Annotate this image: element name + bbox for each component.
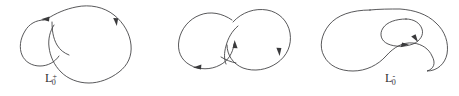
arrow-head-right-edge: [113, 18, 118, 26]
arrow-head-right-edge: [276, 48, 281, 56]
arrow-head-inner-loop: [411, 34, 418, 42]
panel-negative-crossing: L0-: [160, 0, 308, 96]
outer-kidney-curve: [321, 9, 447, 71]
skein-triple-figure: L0+ L0-: [0, 0, 459, 96]
arrow-head-top-left: [41, 17, 50, 22]
outer-strand-right-lobe: [47, 6, 131, 83]
inner-loop-curve: [381, 19, 423, 46]
label-l-zero-plus: L0+: [45, 72, 57, 87]
panel-zero-smoothing: L00: [308, 0, 459, 96]
label-superscript: +: [52, 72, 57, 81]
left-lobe-strand: [178, 13, 234, 69]
under-strand-continuation: [52, 22, 69, 55]
panel-positive-crossing: L0+: [0, 0, 160, 96]
arrow-head-crossing: [233, 40, 238, 48]
right-lobe-strand: [227, 10, 290, 71]
